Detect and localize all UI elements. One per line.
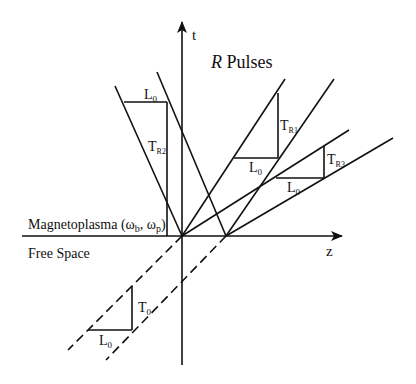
- t-axis-label: t: [192, 27, 197, 43]
- r2-L0-label: L0: [144, 87, 158, 104]
- r1-L0-label: L0: [249, 160, 263, 177]
- r3-pulse-edge-a: [182, 130, 349, 236]
- z-axis-label: z: [326, 243, 333, 259]
- free-space-region-label: Free Space: [28, 246, 90, 261]
- r3-pulse-edge-b: [226, 138, 393, 236]
- incident-pulse-edge-b: [106, 236, 226, 360]
- t0-label: T0: [138, 300, 152, 317]
- r3-L0-label: L0: [287, 180, 301, 197]
- magnetoplasma-region-label: Magnetoplasma (ωb, ωp): [28, 217, 166, 234]
- tr2-label: TR2: [148, 139, 166, 156]
- diagram-title: R Pulses: [210, 52, 273, 72]
- tr3-label: TR3: [327, 152, 345, 169]
- space-time-diagram: t z R Pulses Magnetoplasma (ωb, ωp) Free…: [0, 0, 416, 384]
- tr1-label: TR1: [280, 118, 298, 135]
- incident-L0-label: L0: [99, 333, 113, 350]
